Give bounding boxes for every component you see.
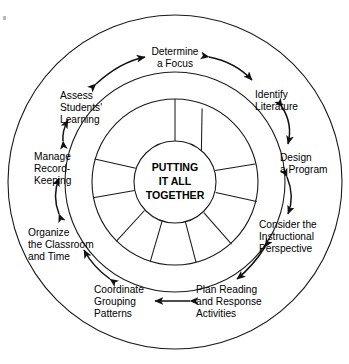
stage-label-determine-a-focus[interactable]: Determine a Focus [152,46,199,69]
stage-line: Consider the [259,219,317,230]
stage-line: Plan Reading [196,284,258,295]
stage-line: a Focus [157,58,193,69]
stage-line: Record- [34,163,70,174]
stage-line: and Response [196,296,262,307]
stage-label-organize-the-classroom-and-time[interactable]: Organize the Classroom and Time [28,227,94,262]
stage-line: Determine [152,46,199,57]
stage-label-consider-the-instructional-perspective[interactable]: Consider the Instructional Perspective [259,219,317,254]
stage-label-assess-students-learning[interactable]: Assess Students' Learning [60,90,102,125]
stage-line: Perspective [259,243,313,254]
stage-line: a Program [280,164,328,175]
connector-identify-to-design [282,107,290,144]
connector-design-to-consider [287,177,291,214]
diagram-canvas: Determine a Focus Identify Literature De… [0,0,349,364]
stage-line: Instructional [259,231,314,242]
stage-line: Activities [196,308,236,319]
center-label: PUTTING IT ALL TOGETHER [146,161,205,201]
stage-line: Grouping [94,296,136,307]
stage-label-design-a-program[interactable]: Design a Program [280,152,328,175]
stage-label-identify-literature[interactable]: Identify Literature [255,89,298,112]
stage-line: Identify [255,89,289,100]
stage-label-manage-record-keeping[interactable]: Manage Record- Keeping [34,151,72,186]
stage-line: Coordinate [94,284,144,295]
stage-line: Manage [34,151,71,162]
stage-line: Learning [60,114,100,125]
connector-determine-to-identify [209,57,252,80]
stage-line: Literature [255,101,298,112]
connector-coordinate-to-organize [84,250,110,279]
stage-line: Assess [60,90,93,101]
center-line: IT ALL [159,175,192,187]
stage-line: and Time [28,251,70,262]
stage-line: Organize [28,227,70,238]
center-line: PUTTING [152,161,199,173]
center-line: TOGETHER [146,189,205,201]
connector-assess-to-determine [96,57,145,84]
stage-line: the Classroom [28,239,94,250]
stage-label-coordinate-grouping-patterns[interactable]: Coordinate Grouping Patterns [94,284,144,319]
stage-line: Design [280,152,312,163]
stage-label-plan-reading-and-response-activities[interactable]: Plan Reading and Response Activities [196,284,262,319]
cycle-diagram: Determine a Focus Identify Literature De… [0,0,349,364]
stage-line: Keeping [34,175,72,186]
stage-line: Patterns [94,308,132,319]
stage-line: Students' [60,102,102,113]
